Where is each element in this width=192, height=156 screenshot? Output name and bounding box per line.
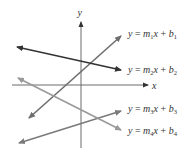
line-3-label: y = m3x + b3 [127,103,177,115]
line-1-label: y = m1x + b1 [127,28,177,40]
coordinate-diagram: x y y = m1x + b1 y = m2x + b2 y = m3x + … [0,0,192,156]
x-axis-label: x [151,80,157,91]
line-4-label: y = m4x + b4 [127,125,178,137]
line-3 [19,111,121,143]
line-1 [29,36,121,118]
y-axis-label: y [77,7,83,18]
line-4 [18,78,121,130]
line-2-label: y = m2x + b2 [127,64,177,76]
